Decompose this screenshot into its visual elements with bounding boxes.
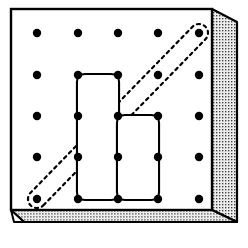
- peg-c5-r4[interactable]: [195, 153, 203, 161]
- board-bottom-edge: [11, 210, 237, 222]
- peg-c1-r2[interactable]: [33, 71, 41, 79]
- right-polygon-outline: [118, 116, 158, 199]
- peg-c4-r3[interactable]: [154, 112, 162, 120]
- peg-c2-r4[interactable]: [74, 153, 82, 161]
- peg-c4-r5[interactable]: [154, 195, 162, 203]
- peg-c2-r1[interactable]: [74, 29, 82, 37]
- peg-c1-r4[interactable]: [33, 153, 41, 161]
- peg-c3-r5[interactable]: [114, 195, 122, 203]
- peg-c1-r5[interactable]: [33, 195, 41, 203]
- peg-c2-r3[interactable]: [74, 112, 82, 120]
- geoboard-canvas: [0, 0, 248, 248]
- left-polygon-outline: [78, 75, 118, 199]
- peg-c4-r2[interactable]: [154, 71, 162, 79]
- peg-c2-r2[interactable]: [74, 71, 82, 79]
- peg-c3-r4[interactable]: [114, 153, 122, 161]
- peg-c5-r2[interactable]: [195, 71, 203, 79]
- peg-c3-r1[interactable]: [114, 29, 122, 37]
- peg-c4-r4[interactable]: [154, 153, 162, 161]
- peg-c4-r1[interactable]: [154, 29, 162, 37]
- solid-rubber-band-left[interactable]: [78, 75, 118, 199]
- peg-c1-r1[interactable]: [33, 29, 41, 37]
- peg-c5-r5[interactable]: [195, 195, 203, 203]
- peg-c3-r3[interactable]: [114, 112, 122, 120]
- peg-c3-r2[interactable]: [114, 71, 122, 79]
- geoboard-figure: Geoboard with rubber band polygons: [0, 0, 248, 248]
- solid-rubber-band-right[interactable]: [118, 116, 158, 199]
- peg-c1-r3[interactable]: [33, 112, 41, 120]
- peg-c2-r5[interactable]: [74, 195, 82, 203]
- peg-c5-r3[interactable]: [195, 112, 203, 120]
- board-right-edge: [212, 9, 237, 222]
- peg-c5-r1[interactable]: [195, 29, 203, 37]
